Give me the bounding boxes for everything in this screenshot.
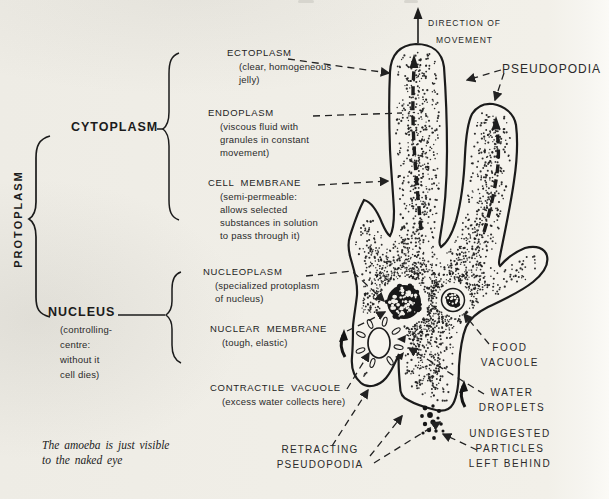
water-rise-arrowhead: [339, 329, 348, 342]
nucleus-sublabel: (controlling- centre: without it cell di…: [48, 322, 115, 382]
direction-arrow: [414, 7, 423, 43]
nuclear-membrane-label: NUCLEAR MEMBRANE (tough, elastic): [210, 322, 327, 349]
retracting-pseudopodia-label: RETRACTING PSEUDOPODIA: [275, 442, 365, 472]
figure-caption: The amoeba is just visible to the naked …: [42, 438, 169, 468]
direction-of-movement-label: DIRECTION OF MOVEMENT: [427, 15, 502, 49]
food-vacuole-organelle: [442, 289, 465, 312]
cell-membrane-leader: [318, 181, 388, 185]
contractile-vacuole-label: CONTRACTILE VACUOLE (excess water collec…: [210, 381, 345, 408]
endoplasm-label: ENDOPLASM (viscous fluid withgranules in…: [208, 106, 309, 159]
textbook-page: PROTOPLASM CYTOPLASM NUCLEUS (controllin…: [0, 0, 609, 499]
pseudopodia-leader: [495, 73, 504, 100]
protoplasm-label: PROTOPLASM: [12, 163, 26, 275]
water-rise-arrowhead: [459, 380, 468, 393]
nucleus-brace: [166, 272, 181, 363]
undigested-particles-label: UNDIGESTED PARTICLES LEFT BEHIND: [465, 426, 555, 471]
cytoplasm-brace: [163, 53, 179, 220]
cytoplasm-label: CYTOPLASM: [71, 120, 158, 134]
retracting-leader: [374, 422, 440, 463]
cell-membrane-label: CELL MEMBRANE (semi-permeable:allows sel…: [208, 176, 318, 242]
ectoplasm-label: ECTOPLASM (clear, homogeneousjelly): [227, 46, 332, 86]
protoplasm-brace: [29, 136, 50, 317]
pseudopodia-leader: [467, 70, 501, 80]
nucleoplasm-label: NUCLEOPLASM (specialized protoplasmof nu…: [203, 265, 319, 305]
pseudopodia-label: PSEUDOPODIA: [502, 62, 601, 76]
retracting-leader: [370, 416, 402, 456]
food-vacuole-label: FOOD VACUOLE: [475, 340, 545, 370]
nucleus-label: NUCLEUS: [48, 305, 115, 319]
water-droplets-label: WATER DROPLETS: [477, 385, 547, 415]
